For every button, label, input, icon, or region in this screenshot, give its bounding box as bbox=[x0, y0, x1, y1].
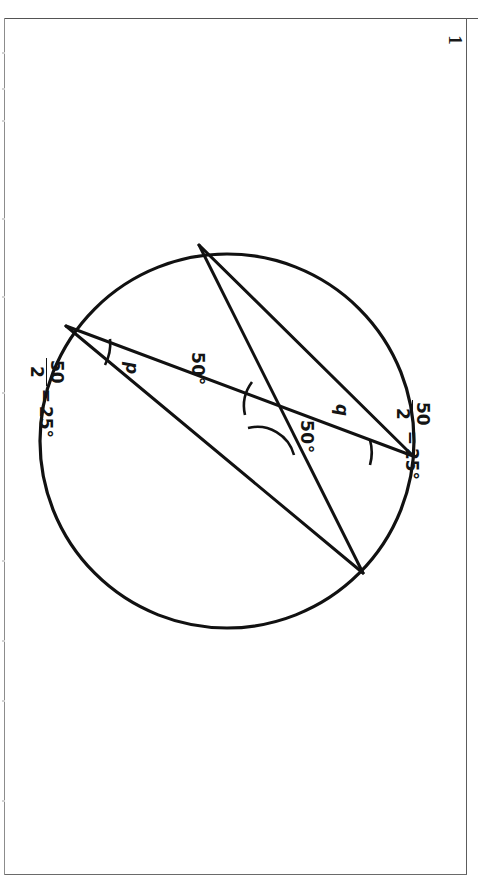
scanned-page: 1 p q 50° 50° 50 2 = bbox=[0, 0, 489, 892]
angle-arc-50-upper bbox=[244, 382, 252, 415]
chord-left-to-right bbox=[66, 326, 413, 456]
fraction-denominator: 2 bbox=[28, 358, 46, 386]
working-note-left: 50 2 = 25° bbox=[28, 358, 66, 438]
angle-label-50-upper: 50° bbox=[188, 352, 208, 386]
fraction-numerator: 50 bbox=[412, 400, 431, 428]
fraction-right: 50 2 bbox=[394, 400, 431, 428]
angle-arc-50-lower bbox=[248, 427, 294, 455]
circle-outline bbox=[40, 254, 414, 628]
angle-label-q: q bbox=[332, 404, 352, 416]
equals-sign-left: = bbox=[37, 389, 57, 403]
result-right: 25° bbox=[403, 448, 423, 480]
fraction-denominator: 2 bbox=[394, 400, 412, 428]
fraction-numerator: 50 bbox=[46, 358, 65, 386]
equals-sign-right: = bbox=[403, 431, 423, 445]
working-note-right: 50 2 = 25° bbox=[394, 400, 432, 480]
result-left: 25° bbox=[37, 406, 57, 438]
angle-arc-q bbox=[370, 440, 372, 465]
angle-label-50-lower: 50° bbox=[297, 420, 317, 454]
angle-label-p: p bbox=[122, 362, 142, 374]
fraction-left: 50 2 bbox=[28, 358, 65, 386]
